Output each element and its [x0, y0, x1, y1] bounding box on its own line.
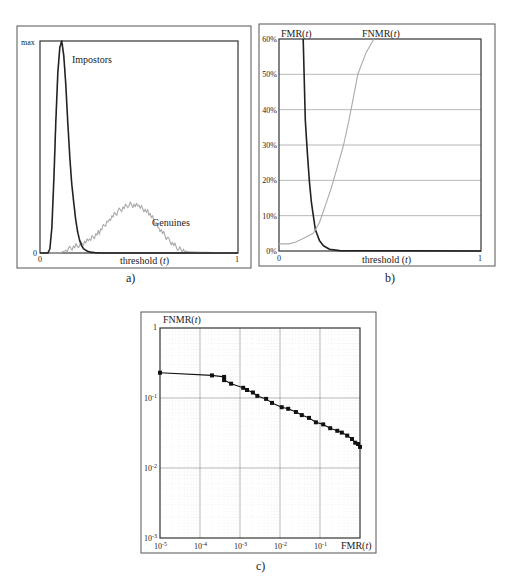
fnmr-curve [279, 39, 374, 244]
panel-a-xlabel-text: threshold ( [120, 255, 164, 267]
y-tick-label: 60% [262, 35, 277, 44]
panel-a: max 0 0 1 threshold (t) Impostors Genuin… [17, 26, 251, 285]
panel-a-xlabel: threshold (t) [120, 255, 169, 267]
fmr-label: FMR(t) [281, 28, 312, 40]
panel-c-xlabel-close: ) [368, 540, 371, 552]
x-tick-label: 10-1 [314, 541, 327, 551]
panel-b-x-one-label: 1 [478, 254, 482, 263]
data-point-marker [335, 429, 339, 433]
data-point-marker [158, 371, 162, 375]
y-tick-label: 50% [262, 70, 277, 79]
panel-c-xlabel-text: FMR( [341, 540, 366, 552]
data-point-marker [280, 405, 284, 409]
fmr-label-text: FMR( [281, 28, 306, 40]
roc-curve [160, 373, 360, 447]
panel-c-ylabel: FNMR(t) [163, 314, 201, 326]
genuines-curve [40, 202, 238, 253]
y-tick-label: 10-2 [144, 463, 157, 473]
data-point-marker [222, 378, 226, 382]
panel-c-ylabel-close: ) [197, 314, 200, 326]
data-point-marker [358, 445, 362, 449]
data-point-marker [255, 394, 259, 398]
data-point-marker [241, 386, 245, 390]
fnmr-label: FNMR(t) [362, 28, 400, 40]
panel-a-y-max-label: max [21, 38, 35, 47]
panel-c-caption: c) [256, 559, 265, 573]
data-point-marker [245, 388, 249, 392]
panel-c-series [158, 371, 362, 449]
data-point-marker [321, 422, 325, 426]
panel-a-xlabel-close: ) [166, 255, 169, 267]
panel-c-gridlines [160, 328, 360, 538]
panel-c-ylabel-text: FNMR( [163, 314, 195, 326]
panel-b-x-zero-label: 0 [277, 254, 281, 263]
x-tick-label: 10-5 [154, 541, 167, 551]
figure: max 0 0 1 threshold (t) Impostors Genuin… [0, 0, 509, 580]
y-tick-label: 20% [262, 176, 277, 185]
panel-c-y-one-label: 1 [153, 323, 157, 332]
panel-b-xlabel-close: ) [408, 254, 411, 266]
fmr-label-close: ) [308, 28, 311, 40]
y-tick-label: 40% [262, 106, 277, 115]
panel-b-gridlines [279, 74, 481, 215]
y-tick-label: 10-1 [144, 393, 157, 403]
data-point-marker [264, 397, 268, 401]
impostors-curve [40, 41, 238, 253]
panel-a-x-zero-label: 0 [38, 255, 42, 264]
x-tick-label: 10-2 [274, 541, 287, 551]
data-point-marker [328, 426, 332, 430]
panel-a-caption: a) [126, 271, 135, 285]
panel-c: 10-110-210-3 10-510-410-310-210-1 1 FNMR… [141, 312, 376, 573]
data-point-marker [210, 373, 214, 377]
y-tick-label: 10% [262, 212, 277, 221]
panel-c-x-tick-labels: 10-510-410-310-210-1 [154, 541, 327, 551]
panel-b-y-tick-labels: 0%10%20%30%40%50%60% [262, 35, 277, 256]
x-tick-label: 10-3 [234, 541, 247, 551]
data-point-marker [307, 416, 311, 420]
fnmr-label-close: ) [396, 28, 399, 40]
data-point-marker [345, 434, 349, 438]
panel-c-plot-area [160, 328, 360, 538]
x-tick-label: 10-4 [194, 541, 207, 551]
data-point-marker [300, 413, 304, 417]
genuines-label: Genuines [152, 217, 190, 228]
data-point-marker [251, 391, 255, 395]
data-point-marker [286, 407, 290, 411]
data-point-marker [270, 401, 274, 405]
panel-b-xlabel: threshold (t) [362, 254, 411, 266]
panel-a-series [40, 41, 238, 253]
panel-a-x-one-label: 1 [235, 255, 239, 264]
panel-c-y-tick-labels: 10-110-210-3 [144, 393, 157, 543]
impostors-label: Impostors [72, 54, 112, 65]
panel-c-xlabel: FMR(t) [341, 540, 372, 552]
y-tick-label: 30% [262, 141, 277, 150]
panel-b-caption: b) [385, 271, 395, 285]
panel-b: 0%10%20%30%40%50%60% 0 1 threshold (t) F… [259, 24, 495, 285]
data-point-marker [229, 382, 233, 386]
panel-a-y-zero-label: 0 [33, 249, 37, 258]
data-point-marker [294, 410, 298, 414]
data-point-marker [314, 420, 318, 424]
panel-b-xlabel-text: threshold ( [362, 254, 406, 266]
fnmr-label-text: FNMR( [362, 28, 394, 40]
y-tick-label: 0% [266, 247, 277, 256]
data-point-marker [340, 431, 344, 435]
data-point-marker [350, 437, 354, 441]
